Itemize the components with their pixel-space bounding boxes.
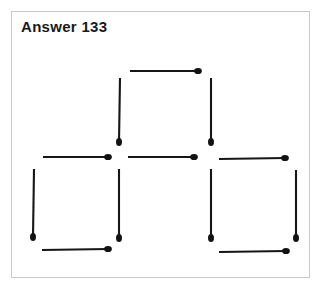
matchstick-head-icon	[116, 138, 122, 146]
matchstick-bottom-left-left	[30, 169, 36, 241]
matchstick-head-icon	[190, 154, 198, 160]
matchstick-head-icon	[194, 68, 202, 74]
matchstick-head-icon	[281, 155, 289, 161]
matchstick-head-icon	[104, 246, 112, 252]
matchstick-middle-centre	[128, 154, 198, 160]
matchstick-middle-left	[43, 154, 112, 160]
matchstick-head-icon	[208, 234, 214, 242]
matchstick-head-icon	[293, 234, 299, 242]
matchstick-head-icon	[282, 248, 290, 254]
matchstick-top-square-left	[116, 78, 122, 146]
matchstick-bottom-right-bottom	[219, 248, 290, 254]
matchstick-shaft	[42, 249, 108, 250]
matchstick-bottom-left-bottom	[42, 246, 112, 252]
matchstick-shaft	[219, 158, 285, 159]
matchstick-bottom-right-left	[208, 169, 214, 242]
matchstick-bottom-right-right	[293, 170, 299, 242]
matchstick-head-icon	[30, 233, 36, 241]
matchstick-diagram	[0, 0, 323, 290]
matchstick-top-square-right	[208, 78, 214, 146]
matchstick-shaft	[219, 251, 286, 252]
matchstick-shaft	[119, 78, 120, 142]
matchstick-middle-right	[219, 155, 289, 161]
matchstick-bottom-left-right	[116, 169, 122, 242]
matchsticks-group	[30, 68, 299, 254]
answer-figure-page: Answer 133	[0, 0, 323, 290]
matchstick-top-square-top	[130, 68, 202, 74]
matchstick-head-icon	[208, 138, 214, 146]
matchstick-head-icon	[104, 154, 112, 160]
matchstick-head-icon	[116, 234, 122, 242]
matchstick-shaft	[33, 169, 34, 237]
